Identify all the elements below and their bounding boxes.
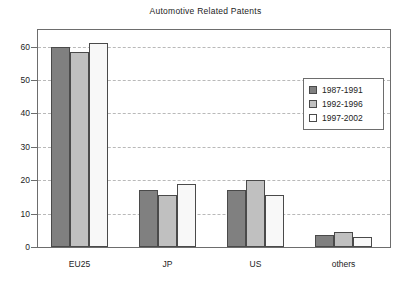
y-axis-tick-label: 20 — [2, 175, 30, 185]
legend-item-label: 1987-1991 — [322, 86, 363, 95]
bar — [89, 43, 108, 247]
bar — [353, 237, 372, 247]
bar — [70, 52, 89, 247]
legend-item[interactable]: 1987-1991 — [309, 83, 378, 97]
bar — [158, 195, 177, 247]
x-axis-category-label: EU25 — [69, 259, 90, 269]
y-axis-tick — [31, 214, 37, 215]
legend-item-label: 1997-2002 — [322, 114, 363, 123]
legend-swatch-icon — [309, 114, 317, 122]
chart-container: Automotive Related Patents 0102030405060… — [0, 0, 411, 286]
bar — [265, 195, 284, 247]
chart-legend: 1987-19911992-19961997-2002 — [303, 78, 384, 130]
y-axis-tick — [31, 47, 37, 48]
y-axis-tick — [31, 147, 37, 148]
y-axis-tick — [31, 180, 37, 181]
bar — [139, 190, 158, 247]
chart-title: Automotive Related Patents — [0, 6, 411, 16]
legend-swatch-icon — [309, 100, 317, 108]
y-axis-tick-label: 40 — [2, 108, 30, 118]
legend-item[interactable]: 1997-2002 — [309, 111, 378, 125]
y-axis-tick — [31, 247, 37, 248]
plot-inner — [38, 30, 390, 247]
x-axis-category-label: others — [332, 259, 356, 269]
bar — [177, 184, 196, 247]
y-axis-tick — [31, 113, 37, 114]
y-axis-tick — [31, 80, 37, 81]
x-axis-category-label: JP — [163, 259, 173, 269]
y-axis-tick-label: 50 — [2, 75, 30, 85]
bar — [51, 47, 70, 247]
legend-item-label: 1992-1996 — [322, 100, 363, 109]
legend-swatch-icon — [309, 86, 317, 94]
y-axis-tick-label: 0 — [2, 242, 30, 252]
y-axis: 0102030405060 — [0, 0, 30, 286]
x-axis-category-label: US — [250, 259, 262, 269]
y-axis-tick-label: 30 — [2, 142, 30, 152]
bar — [315, 235, 334, 247]
y-axis-tick-label: 10 — [2, 209, 30, 219]
bar — [227, 190, 246, 247]
legend-item[interactable]: 1992-1996 — [309, 97, 378, 111]
bar — [246, 180, 265, 247]
y-axis-tick-label: 60 — [2, 42, 30, 52]
bar — [334, 232, 353, 247]
